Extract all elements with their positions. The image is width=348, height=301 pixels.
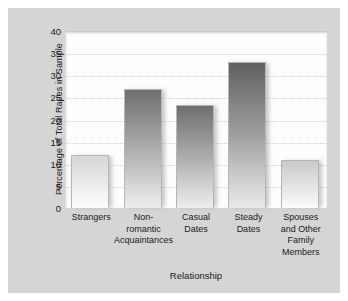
y-tick-label: 10 <box>31 158 61 169</box>
y-tick-label: 25 <box>31 92 61 103</box>
x-axis-tick-labels: StrangersNon-romanticAcquaintancesCasual… <box>65 212 327 274</box>
bar <box>71 155 109 208</box>
bar <box>124 89 162 208</box>
x-tick-label: Strangers <box>61 212 121 224</box>
x-tick-label: Spousesand OtherFamilyMembers <box>271 212 331 258</box>
y-tick-label: 40 <box>31 26 61 37</box>
bar-series <box>66 32 327 208</box>
x-axis-title: Relationship <box>65 270 327 281</box>
chart-figure: Percentage of Total Rapes in Sample 4035… <box>0 0 348 301</box>
x-tick-label: CasualDates <box>166 212 226 235</box>
bar <box>176 105 214 208</box>
y-tick-label: 0 <box>31 203 61 214</box>
x-tick-label: SteadyDates <box>218 212 278 235</box>
y-tick-label: 20 <box>31 114 61 125</box>
bar-slot <box>276 31 328 208</box>
x-tick-label: Non-romanticAcquaintances <box>114 212 174 247</box>
bar-slot <box>171 31 223 208</box>
plot-area <box>65 31 327 208</box>
bar-slot <box>118 31 170 208</box>
bar <box>228 62 266 208</box>
y-tick-label: 30 <box>31 70 61 81</box>
y-tick-label: 35 <box>31 48 61 59</box>
bar-slot <box>66 31 118 208</box>
bar <box>281 160 319 208</box>
y-axis-tick-labels: 4035302520151050 <box>27 31 61 208</box>
y-tick-label: 15 <box>31 136 61 147</box>
bar-slot <box>223 31 275 208</box>
y-tick-label: 5 <box>31 180 61 191</box>
chart-panel: Percentage of Total Rapes in Sample 4035… <box>8 8 340 293</box>
